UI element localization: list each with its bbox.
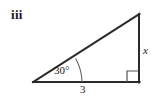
angle-measure-label: 30° <box>54 65 69 76</box>
base-length-label: 3 <box>80 84 86 95</box>
triangle-hypotenuse-side <box>33 14 140 82</box>
right-angle-marker-icon <box>127 71 139 82</box>
angle-arc <box>76 58 82 82</box>
side-variable-label: x <box>143 45 148 56</box>
triangle-diagram-svg <box>0 0 158 103</box>
triangle-figure: iii 30° 3 x <box>0 0 158 103</box>
figure-item-label: iii <box>11 8 23 21</box>
